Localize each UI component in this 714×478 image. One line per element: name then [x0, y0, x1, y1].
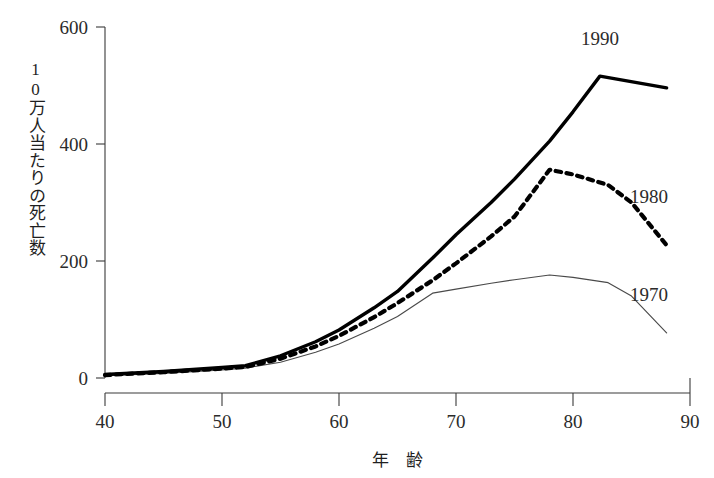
y-tick-label-400: 400: [60, 134, 89, 155]
x-tick-label-70: 70: [447, 411, 466, 432]
x-tick-label-50: 50: [213, 411, 232, 432]
x-tick-label-90: 90: [681, 411, 700, 432]
x-axis-title: 年 齢: [372, 451, 423, 470]
data-series-group: [105, 76, 667, 376]
x-axis: 40 50 60 70 80 90 年 齢: [96, 378, 700, 470]
y-tick-label-200: 200: [60, 251, 89, 272]
series-annotations: 1990 1980 1970: [581, 28, 668, 305]
series-line-1990: [105, 76, 667, 374]
x-tick-label-60: 60: [330, 411, 349, 432]
series-label-1970: 1970: [630, 284, 668, 305]
y-tick-label-600: 600: [60, 17, 89, 38]
y-axis: 0 200 400 600: [60, 17, 106, 389]
line-chart: 0 200 400 600 40 50 60 70 80 90 年 齢: [0, 0, 714, 478]
chart-figure: 10万人当たりの死亡数 0 200 400 600 40 50 60 70: [0, 0, 714, 478]
x-tick-label-80: 80: [564, 411, 583, 432]
series-label-1990: 1990: [581, 28, 619, 49]
series-line-1970: [105, 275, 667, 376]
y-tick-label-0: 0: [79, 368, 89, 389]
x-tick-label-40: 40: [96, 411, 115, 432]
series-label-1980: 1980: [630, 186, 668, 207]
series-line-1980: [105, 170, 667, 375]
